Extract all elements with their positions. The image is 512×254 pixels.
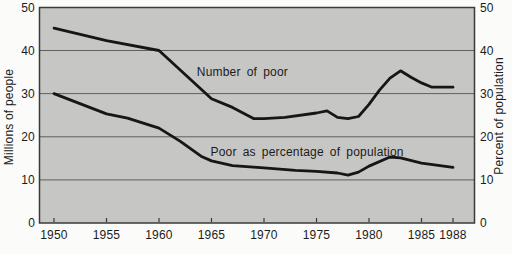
poverty-chart: 195019551960196519701975198019851988 010… <box>0 0 512 254</box>
x-tick-label-1960: 1960 <box>145 228 173 242</box>
y-left-label-0: 0 <box>28 216 35 230</box>
y-left-label-10: 10 <box>21 173 35 187</box>
x-tick-label-1950: 1950 <box>40 228 68 242</box>
x-tick-label-1965: 1965 <box>198 228 226 242</box>
x-tick-label-1955: 1955 <box>93 228 121 242</box>
y-right-label-50: 50 <box>480 1 494 15</box>
y-right-label-40: 40 <box>480 44 494 58</box>
x-tick-label-1985: 1985 <box>408 228 436 242</box>
x-axis-labels: 195019551960196519701975198019851988 <box>40 228 467 242</box>
x-tick-label-1970: 1970 <box>250 228 278 242</box>
y-left-label-20: 20 <box>21 130 35 144</box>
y-left-label-50: 50 <box>21 1 35 15</box>
y-left-label-30: 30 <box>21 87 35 101</box>
y-right-label-0: 0 <box>480 216 487 230</box>
x-tick-label-1975: 1975 <box>303 228 331 242</box>
y-axis-left-labels: 01020304050 <box>21 1 35 231</box>
y-axis-right-title: Percent of population <box>492 57 506 175</box>
poverty-trend-figure: 195019551960196519701975198019851988 010… <box>0 0 512 254</box>
annotation-poverty-rate: Poor as percentage of population <box>211 145 404 159</box>
y-left-label-40: 40 <box>21 44 35 58</box>
x-tick-label-1980: 1980 <box>355 228 383 242</box>
annotation-number-of-poor: Number of poor <box>197 65 288 79</box>
x-tick-label-1988: 1988 <box>439 228 467 242</box>
y-axis-left-title: Millions of people <box>2 69 16 165</box>
